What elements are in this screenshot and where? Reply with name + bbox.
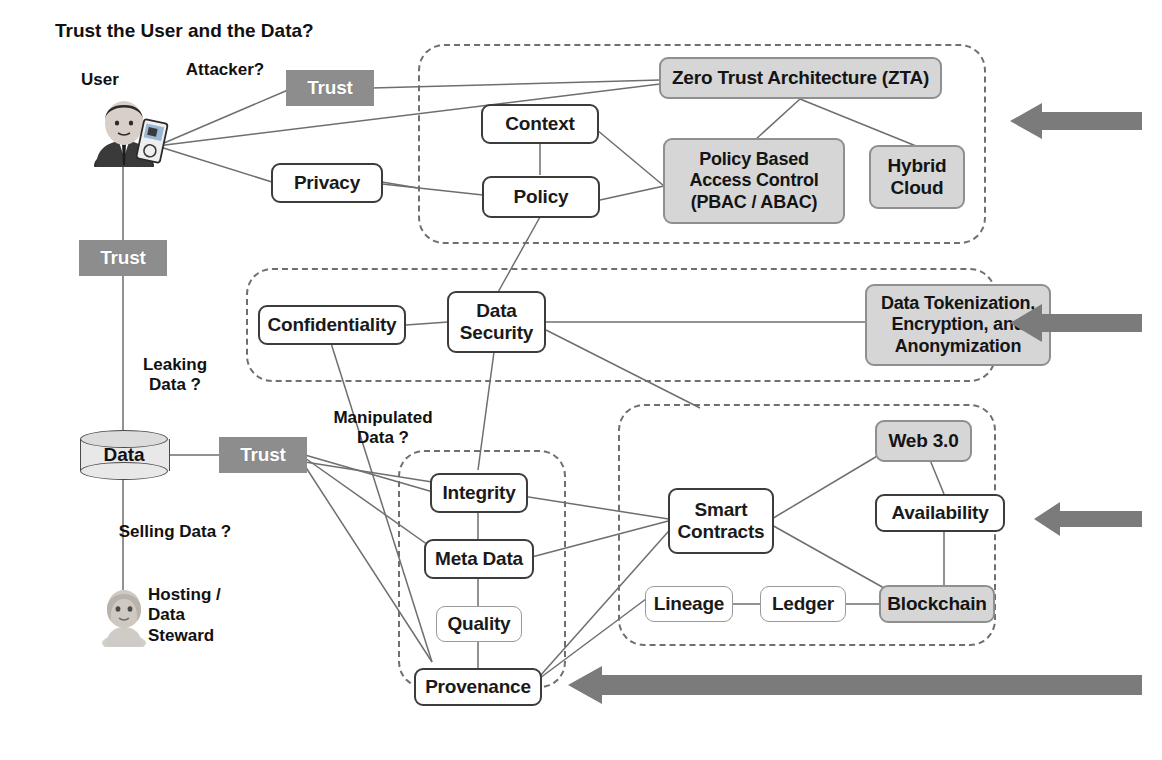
node-blockchain[interactable]: Blockchain — [879, 585, 995, 623]
data-store-cylinder[interactable]: Data — [80, 430, 168, 480]
person-avatar-icon — [96, 585, 152, 647]
node-hybrid-cloud[interactable]: Hybrid Cloud — [869, 145, 965, 209]
node-availability[interactable]: Availability — [875, 494, 1005, 532]
node-lineage[interactable]: Lineage — [645, 586, 733, 622]
node-ledger[interactable]: Ledger — [760, 586, 846, 622]
node-integrity[interactable]: Integrity — [430, 473, 528, 513]
node-provenance[interactable]: Provenance — [414, 668, 542, 706]
node-data-security[interactable]: Data Security — [447, 291, 546, 353]
node-zero-trust-architecture[interactable]: Zero Trust Architecture (ZTA) — [659, 57, 942, 99]
diagram-canvas: Trust the User and the Data? — [0, 0, 1162, 760]
label-attacker-question: Attacker? — [150, 60, 300, 80]
node-meta-data[interactable]: Meta Data — [424, 539, 534, 579]
arrow-zta — [1010, 101, 1142, 141]
user-avatar-icon — [82, 95, 174, 167]
label-leaking-data-question: Leaking Data ? — [120, 355, 230, 396]
label-data-steward: Hosting / Data Steward — [148, 585, 258, 646]
node-web3[interactable]: Web 3.0 — [875, 420, 972, 462]
trust-node-data[interactable]: Trust — [219, 437, 307, 473]
node-smart-contracts[interactable]: Smart Contracts — [668, 488, 774, 554]
arrow-web3 — [1034, 500, 1142, 538]
arrow-provenance — [568, 664, 1142, 706]
label-manipulated-data-question: Manipulated Data ? — [308, 408, 458, 449]
data-store-label: Data — [80, 430, 168, 480]
trust-node-middle[interactable]: Trust — [79, 240, 167, 276]
node-quality[interactable]: Quality — [436, 606, 522, 642]
page-title: Trust the User and the Data? — [55, 20, 314, 42]
node-context[interactable]: Context — [481, 104, 599, 144]
label-selling-data-question: Selling Data ? — [90, 522, 260, 542]
node-confidentiality[interactable]: Confidentiality — [258, 305, 406, 345]
node-privacy[interactable]: Privacy — [271, 163, 383, 203]
label-user: User — [60, 70, 140, 90]
node-policy-based-access-control[interactable]: Policy Based Access Control (PBAC / ABAC… — [663, 138, 845, 224]
arrow-data-security — [1010, 302, 1142, 344]
node-policy[interactable]: Policy — [482, 176, 600, 218]
trust-node-user[interactable]: Trust — [286, 70, 374, 106]
